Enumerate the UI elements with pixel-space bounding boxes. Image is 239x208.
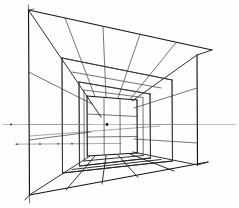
ground-tick-3 — [57, 143, 59, 145]
outer-frame-right-edge — [197, 55, 198, 165]
ground-tick-1 — [16, 143, 18, 145]
ground-tick-2 — [39, 143, 41, 145]
right-wall-vertical-1 — [172, 80, 173, 161]
horizon-tick-left — [10, 123, 12, 125]
ground-tick-4 — [71, 143, 73, 145]
paper-background — [0, 0, 239, 208]
back-wall-horizontal-2 — [87, 137, 137, 138]
left-wall-vertical-2 — [79, 82, 80, 166]
perspective-svg — [0, 0, 239, 208]
left-wall-vertical-1 — [62, 58, 63, 173]
right-wall-vertical-2 — [150, 94, 151, 158]
perspective-drawing-canvas — [0, 0, 239, 208]
vanishing-point-dot — [106, 123, 109, 126]
